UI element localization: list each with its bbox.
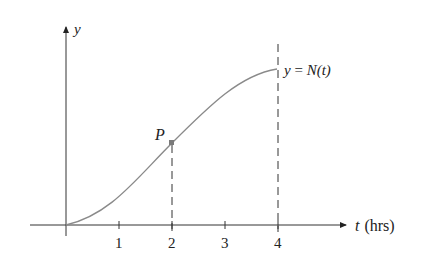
tick-label-4: 4: [274, 235, 282, 251]
tick-label-3: 3: [221, 235, 229, 251]
tick-label-2: 2: [168, 235, 176, 251]
curve-eq: =: [291, 62, 307, 78]
t-axis-label: t(hrs): [355, 217, 395, 235]
graph: y P y = N(t) t(hrs) 1 2 3 4: [0, 0, 426, 266]
y-axis-label: y: [72, 21, 81, 37]
point-P: [169, 140, 174, 145]
point-label: P: [154, 126, 165, 143]
curve-lhs-y: y: [282, 62, 291, 78]
t-axis-unit: (hrs): [364, 217, 394, 235]
curve-fn: N(t): [306, 62, 331, 79]
t-axis-var: t: [355, 217, 360, 234]
curve-label: y = N(t): [282, 62, 331, 79]
tick-label-1: 1: [115, 235, 123, 251]
